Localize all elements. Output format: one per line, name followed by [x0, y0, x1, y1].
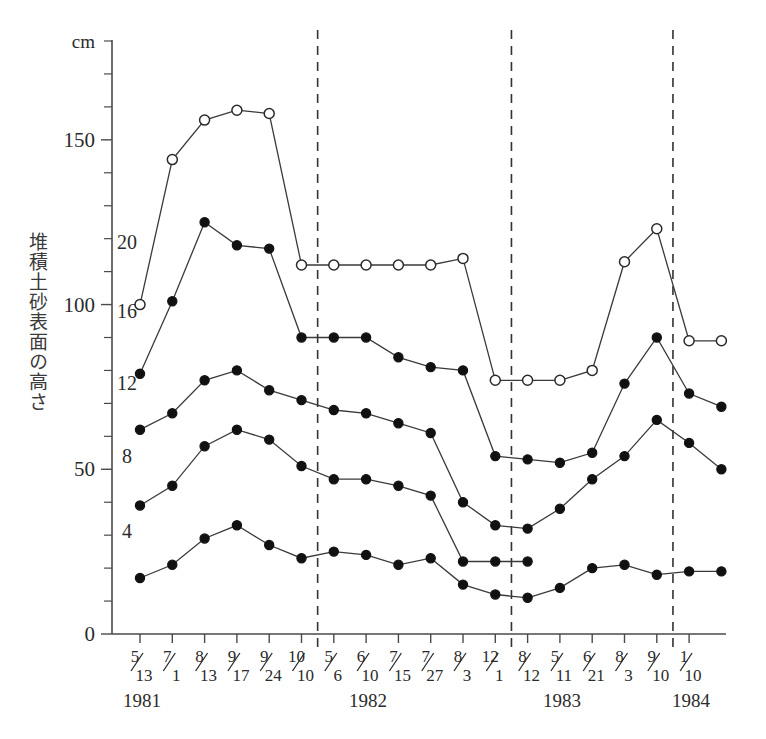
- data-point-4-16: [652, 570, 661, 579]
- data-point-4-9: [426, 554, 435, 563]
- x-tick-month: 8: [518, 647, 527, 666]
- series-inline-label-4: 4: [122, 520, 132, 542]
- data-point-12-11: [491, 521, 500, 530]
- data-point-16-1: [168, 297, 177, 306]
- x-tick-day: 11: [556, 666, 572, 685]
- x-tick-fraction-label: 621: [583, 647, 605, 685]
- data-point-4-2: [200, 534, 209, 543]
- data-point-16-18: [717, 402, 726, 411]
- series-group: [135, 105, 726, 602]
- x-tick-day: 1: [172, 666, 181, 685]
- x-tick-month: 9: [260, 647, 269, 666]
- x-tick-month: 6: [583, 647, 592, 666]
- data-point-16-9: [426, 363, 435, 372]
- data-point-12-17: [685, 438, 694, 447]
- x-tick-fraction-label: 56: [325, 647, 343, 685]
- data-point-20-9: [426, 260, 436, 270]
- x-axis-year-label: 1983: [543, 690, 581, 711]
- series-inline-label-8: 8: [122, 445, 132, 467]
- data-point-8-3: [232, 425, 241, 434]
- x-tick-month: 9: [228, 647, 237, 666]
- data-point-8-12: [523, 557, 532, 566]
- y-tick-label: 50: [74, 457, 95, 481]
- data-point-12-18: [717, 465, 726, 474]
- figure-root: 5137181391792410105661071572783121812511…: [0, 0, 766, 739]
- x-tick-day: 13: [200, 666, 217, 685]
- data-point-12-14: [588, 475, 597, 484]
- y-tick-label: 0: [85, 622, 96, 646]
- data-point-12-2: [200, 376, 209, 385]
- x-tick-fraction-label: 511: [551, 647, 572, 685]
- x-tick-day: 27: [426, 666, 444, 685]
- data-point-12-8: [394, 419, 403, 428]
- data-point-16-7: [362, 333, 371, 342]
- x-tick-fraction-label: 715: [389, 647, 411, 685]
- data-point-8-5: [297, 461, 306, 470]
- series-line-8: [140, 430, 528, 562]
- data-point-16-14: [588, 448, 597, 457]
- data-point-4-5: [297, 554, 306, 563]
- x-tick-month: 5: [325, 647, 334, 666]
- x-tick-day: 21: [588, 666, 605, 685]
- data-point-4-12: [523, 593, 532, 602]
- data-point-16-2: [200, 218, 209, 227]
- data-point-12-10: [458, 498, 467, 507]
- data-point-12-5: [297, 396, 306, 405]
- series-line-16: [140, 222, 721, 463]
- figure-caption: [96, 722, 696, 739]
- y-axis-unit-label: cm: [72, 31, 95, 52]
- y-tick-label: 150: [64, 128, 96, 152]
- data-point-12-6: [329, 405, 338, 414]
- x-axis-year-label: 1981: [123, 690, 161, 711]
- data-point-12-1: [168, 409, 177, 418]
- x-tick-fraction-label: 71: [163, 647, 181, 685]
- data-point-16-5: [297, 333, 306, 342]
- x-tick-fraction-label: 812: [518, 647, 540, 685]
- data-point-4-14: [588, 564, 597, 573]
- data-point-4-18: [717, 567, 726, 576]
- data-point-4-8: [394, 560, 403, 569]
- data-point-4-13: [555, 583, 564, 592]
- data-point-8-0: [135, 501, 144, 510]
- x-tick-month: 6: [357, 647, 366, 666]
- x-tick-month: 7: [389, 647, 398, 666]
- series-line-12: [140, 370, 721, 528]
- x-tick-day: 10: [297, 666, 314, 685]
- x-tick-fraction-label: 610: [357, 647, 379, 685]
- x-tick-month: 5: [551, 647, 560, 666]
- y-axis-label-group: 050100150cm: [64, 31, 96, 646]
- data-point-20-6: [329, 260, 339, 270]
- data-point-8-8: [394, 481, 403, 490]
- data-point-8-6: [329, 475, 338, 484]
- x-tick-fraction-label: 1010: [288, 647, 314, 685]
- x-tick-fraction-label: 813: [195, 647, 217, 685]
- x-tick-fraction-label: 727: [421, 647, 443, 685]
- data-point-8-10: [458, 557, 467, 566]
- data-point-16-8: [394, 353, 403, 362]
- series-20: [135, 105, 726, 385]
- x-tick-day: 10: [685, 666, 702, 685]
- data-point-16-15: [620, 379, 629, 388]
- x-axis-year-label: 1984: [672, 690, 711, 711]
- data-point-4-17: [685, 567, 694, 576]
- data-point-4-0: [135, 573, 144, 582]
- x-tick-day: 3: [463, 666, 472, 685]
- x-tick-day: 12: [523, 666, 540, 685]
- data-point-12-9: [426, 428, 435, 437]
- data-point-8-9: [426, 491, 435, 500]
- data-point-12-7: [362, 409, 371, 418]
- data-point-20-1: [167, 155, 177, 165]
- data-point-12-4: [265, 386, 274, 395]
- data-point-16-3: [232, 241, 241, 250]
- x-tick-month: 8: [195, 647, 204, 666]
- x-tick-day: 15: [394, 666, 411, 685]
- data-point-20-16: [652, 224, 662, 234]
- x-tick-month: 8: [454, 647, 463, 666]
- data-point-20-8: [393, 260, 403, 270]
- x-tick-day: 24: [265, 666, 283, 685]
- series-8: [135, 425, 532, 566]
- sediment-surface-height-line-chart: 5137181391792410105661071572783121812511…: [0, 0, 766, 739]
- data-point-16-12: [523, 455, 532, 464]
- y-axis-title: 堆積土砂表面の高さ: [14, 232, 48, 412]
- data-point-20-13: [555, 375, 565, 385]
